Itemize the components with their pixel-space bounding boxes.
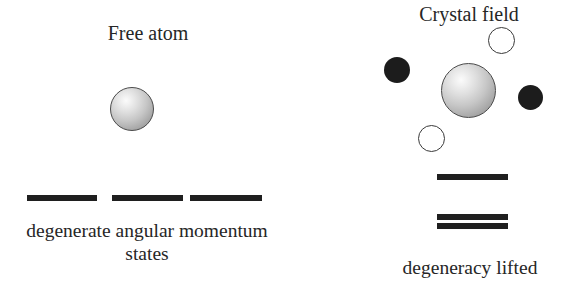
crystal-field-splitting-figure: Free atom degenerate angular momentum st… (0, 0, 578, 293)
crystal-field-title: Crystal field (358, 3, 578, 25)
central-ion-sphere (441, 63, 496, 118)
degenerate-energy-level-1 (27, 195, 97, 201)
ligand-open-circle-bottom (418, 125, 445, 152)
degeneracy-lifted-caption: degeneracy lifted (362, 257, 578, 279)
split-energy-level-lower-2 (437, 223, 508, 229)
free-atom-title: Free atom (37, 22, 259, 44)
degenerate-states-caption: degenerate angular momentum states (18, 219, 276, 265)
split-energy-level-upper (437, 174, 508, 180)
ligand-filled-circle-left (384, 57, 410, 83)
split-energy-level-lower-1 (437, 214, 508, 220)
degenerate-energy-level-3 (190, 195, 262, 201)
degenerate-energy-level-2 (112, 195, 183, 201)
ligand-filled-circle-right (518, 85, 543, 110)
ligand-open-circle-top (488, 27, 515, 54)
free-atom-sphere (110, 87, 154, 131)
